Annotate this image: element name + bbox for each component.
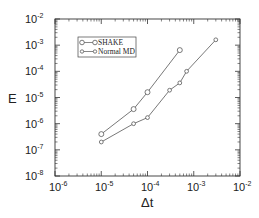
chart-background — [0, 0, 259, 218]
data-point-circle-icon — [132, 122, 136, 126]
data-point-circle-icon — [99, 132, 104, 137]
legend-label-shake: SHAKE — [98, 38, 123, 47]
data-point-circle-icon — [185, 69, 189, 73]
legend-marker-large-circle-icon — [93, 40, 98, 45]
data-point-circle-icon — [214, 38, 218, 42]
data-point-circle-icon — [178, 81, 182, 85]
log-log-error-chart: SHAKE Normal MD 10-6 10-5 10-4 10-3 10-2… — [0, 0, 259, 218]
x-axis-title: Δt — [141, 195, 154, 210]
data-point-circle-icon — [99, 140, 103, 144]
data-point-circle-icon — [146, 116, 150, 120]
data-point-circle-icon — [145, 90, 150, 95]
data-point-circle-icon — [131, 107, 136, 112]
data-point-circle-icon — [177, 48, 182, 53]
legend-marker-small-circle-icon — [80, 50, 83, 53]
legend-label-normal-md: Normal MD — [98, 47, 135, 56]
y-axis-title: E — [8, 91, 17, 106]
data-point-circle-icon — [168, 88, 172, 92]
legend-marker-large-circle-icon — [80, 40, 85, 45]
legend-marker-small-circle-icon — [93, 50, 96, 53]
legend: SHAKE Normal MD — [78, 37, 136, 57]
